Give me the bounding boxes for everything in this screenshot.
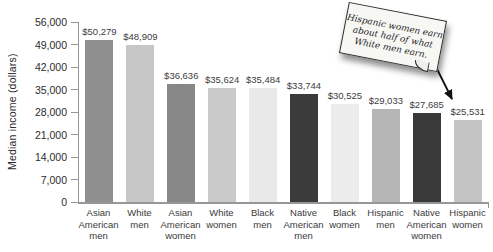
- bar: [85, 40, 113, 202]
- y-tick: [71, 134, 79, 135]
- y-tick-label: 42,000: [7, 61, 67, 73]
- bar-group: $25,531: [447, 22, 488, 202]
- bar-group: $35,624: [202, 22, 243, 202]
- bar: [372, 109, 400, 202]
- x-category-label: Asian American men: [78, 207, 119, 242]
- y-tick: [71, 157, 79, 158]
- y-tick: [71, 67, 79, 68]
- bar-value-label: $48,909: [123, 31, 157, 42]
- bar-group: $35,484: [243, 22, 284, 202]
- bar-value-label: $35,484: [246, 74, 280, 85]
- x-category-label: White women: [201, 207, 242, 242]
- bar-value-label: $35,624: [205, 74, 239, 85]
- bar: [126, 45, 154, 202]
- bar: [167, 84, 195, 202]
- x-axis-line: [78, 202, 489, 204]
- bar-value-label: $25,531: [450, 106, 484, 117]
- x-category-label: Hispanic men: [365, 207, 406, 242]
- x-category-label: Asian American women: [160, 207, 201, 242]
- x-category-label: White men: [119, 207, 160, 242]
- x-axis-labels: Asian American menWhite menAsian America…: [78, 207, 488, 242]
- bar-group: $50,279: [79, 22, 120, 202]
- y-tick: [71, 89, 79, 90]
- y-tick-label: 49,000: [7, 39, 67, 51]
- x-category-label: Native American women: [406, 207, 447, 242]
- bar-value-label: $33,744: [287, 80, 321, 91]
- bar-value-label: $27,685: [410, 99, 444, 110]
- x-category-label: Native American men: [283, 207, 324, 242]
- bar-group: $33,744: [284, 22, 325, 202]
- bar-value-label: $29,033: [369, 95, 403, 106]
- bar: [208, 88, 236, 203]
- x-category-label: Black women: [324, 207, 365, 242]
- bar-value-label: $50,279: [82, 26, 116, 37]
- y-tick-label: 7,000: [7, 174, 67, 186]
- y-tick: [71, 44, 79, 45]
- y-tick: [71, 22, 79, 23]
- y-tick-label: 56,000: [7, 16, 67, 28]
- y-tick-label: 14,000: [7, 151, 67, 163]
- bar-group: $36,636: [161, 22, 202, 202]
- x-category-label: Hispanic women: [447, 207, 488, 242]
- bar: [413, 113, 441, 202]
- y-tick-label: 35,000: [7, 84, 67, 96]
- bar-value-label: $30,525: [328, 90, 362, 101]
- bar-value-label: $36,636: [164, 70, 198, 81]
- y-tick-label: 21,000: [7, 129, 67, 141]
- bar: [290, 94, 318, 203]
- bar: [454, 120, 482, 202]
- y-tick-label: 28,000: [7, 106, 67, 118]
- x-category-label: Black men: [242, 207, 283, 242]
- y-tick-label: 0: [7, 196, 67, 208]
- bar: [249, 88, 277, 202]
- bar-group: $48,909: [120, 22, 161, 202]
- figure: Median income (dollars) 07,00014,00021,0…: [0, 0, 493, 252]
- bar: [331, 104, 359, 202]
- y-tick: [71, 112, 79, 113]
- y-tick: [71, 179, 79, 180]
